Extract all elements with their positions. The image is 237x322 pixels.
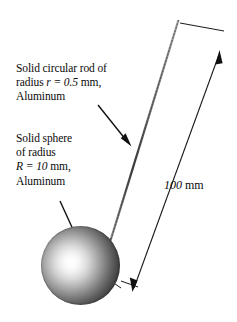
rod-annotation: Solid circular rod of radius r = 0.5 mm,… <box>16 61 107 104</box>
rod-radius-prefix: radius <box>16 76 46 88</box>
sphere-annotation-line-3: R = 10 mm, <box>16 159 72 173</box>
pendulum-figure: Solid circular rod of radius r = 0.5 mm,… <box>0 0 237 322</box>
sphere-radius-unit: mm, <box>47 160 70 172</box>
length-dimension-label: 100 mm <box>164 178 204 193</box>
aluminum-sphere <box>41 226 120 305</box>
rod-radius-unit: mm, <box>78 76 101 88</box>
sphere-radius-value: R = 10 <box>16 160 47 172</box>
leader-arrow-rod <box>98 105 132 147</box>
rod-shaft <box>109 20 179 247</box>
length-value: 100 <box>164 178 182 192</box>
sphere-annotation: Solid sphere of radius R = 10 mm, Alumin… <box>16 131 72 188</box>
rod-annotation-line-3: Aluminum <box>16 89 107 103</box>
rod-radius-value: r = 0.5 <box>46 76 78 88</box>
rod-annotation-line-2: radius r = 0.5 mm, <box>16 75 107 89</box>
dimension-line-100mm <box>130 50 223 292</box>
dimension-extension-top <box>180 23 224 31</box>
length-unit: mm <box>182 178 204 192</box>
sphere-annotation-line-4: Aluminum <box>16 174 72 188</box>
rod-annotation-line-1: Solid circular rod of <box>16 61 107 75</box>
sphere-annotation-line-2: of radius <box>16 145 72 159</box>
sphere-annotation-line-1: Solid sphere <box>16 131 72 145</box>
